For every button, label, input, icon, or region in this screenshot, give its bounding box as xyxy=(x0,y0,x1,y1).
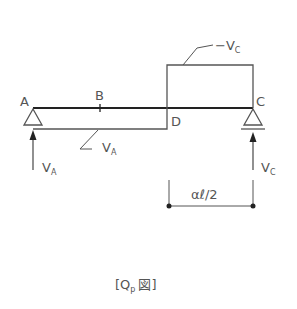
arrowhead-up-icon xyxy=(30,130,37,140)
label-point-c: C xyxy=(256,94,265,109)
shear-region-vc xyxy=(167,65,253,108)
arrowhead-up-icon xyxy=(250,132,257,142)
support-a-icon xyxy=(24,109,42,125)
dimension-dot-left xyxy=(167,204,172,209)
leader-line-vc xyxy=(183,45,213,65)
label-point-d: D xyxy=(171,114,181,129)
label-point-a: A xyxy=(20,94,29,109)
dimension-dot-right xyxy=(251,204,256,209)
label-neg-vc: −VC xyxy=(215,38,241,55)
label-dimension: αℓ/2 xyxy=(191,187,218,202)
leader-line-va xyxy=(80,130,98,149)
label-shear-va: VA xyxy=(102,140,117,157)
shear-force-diagram: A B C D −VC VA VA VC αℓ/2 [Qp図] xyxy=(0,0,297,309)
support-c-icon xyxy=(244,109,262,125)
label-point-b: B xyxy=(95,88,104,103)
figure-caption: [Qp図] xyxy=(115,277,156,294)
label-reaction-vc: VC xyxy=(261,160,276,177)
label-reaction-va: VA xyxy=(42,160,57,177)
